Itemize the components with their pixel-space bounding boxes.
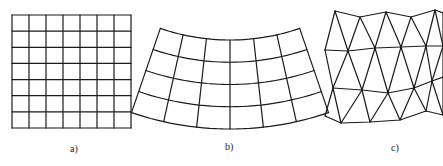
triangular-mesh-c: [325, 10, 443, 123]
panel-label-c: c): [391, 142, 399, 153]
rectangular-grid-a: [12, 15, 131, 128]
panel-label-a: a): [70, 143, 78, 154]
curvilinear-grid-b: [131, 28, 328, 129]
figure-canvas: [0, 0, 443, 166]
panel-label-b: b): [225, 141, 233, 152]
